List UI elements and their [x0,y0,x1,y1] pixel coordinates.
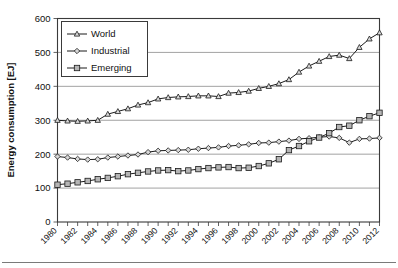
data-point-marker [256,163,261,168]
y-tick-label: 100 [35,182,51,193]
data-point-marker [266,161,271,166]
data-point-marker [226,164,231,169]
data-point-marker [165,167,170,172]
chart-legend: WorldIndustrialEmerging [62,22,148,77]
data-point-marker [105,175,110,180]
y-tick-label: 200 [35,149,51,160]
data-point-marker [286,147,291,152]
data-point-marker [377,110,382,115]
data-point-marker [176,168,181,173]
y-tick-label: 600 [35,13,51,24]
data-point-marker [216,165,221,170]
legend-item-label: World [91,28,116,39]
data-point-marker [306,139,311,144]
data-point-marker [296,143,301,148]
data-point-marker [95,177,100,182]
data-point-marker [135,170,140,175]
data-point-marker [276,157,281,162]
data-point-marker [236,165,241,170]
legend-item-label: Emerging [91,62,132,73]
data-point-marker [85,178,90,183]
data-point-marker [316,135,321,140]
y-tick-label: 400 [35,81,51,92]
y-tick-label: 0 [45,216,50,227]
chart-background [0,0,398,268]
data-point-marker [357,118,362,123]
data-point-marker [347,123,352,128]
data-point-marker [326,130,331,135]
data-point-marker [145,169,150,174]
y-tick-label: 300 [35,115,51,126]
data-point-marker [337,124,342,129]
data-point-marker [125,171,130,176]
data-point-marker [115,174,120,179]
data-point-marker [65,181,70,186]
y-axis-title: Energy consumption [EJ] [5,62,16,177]
data-point-marker [155,168,160,173]
data-point-marker [206,165,211,170]
data-point-marker [186,168,191,173]
chart-canvas: 0100200300400500600 Energy consumption [… [0,0,398,268]
data-point-marker [74,65,79,70]
legend-item-label: Industrial [91,45,130,56]
data-point-marker [367,113,372,118]
data-point-marker [246,165,251,170]
data-point-marker [55,182,60,187]
energy-consumption-chart: 0100200300400500600 Energy consumption [… [0,0,398,268]
y-tick-label: 500 [35,47,51,58]
data-point-marker [196,166,201,171]
data-point-marker [75,180,80,185]
